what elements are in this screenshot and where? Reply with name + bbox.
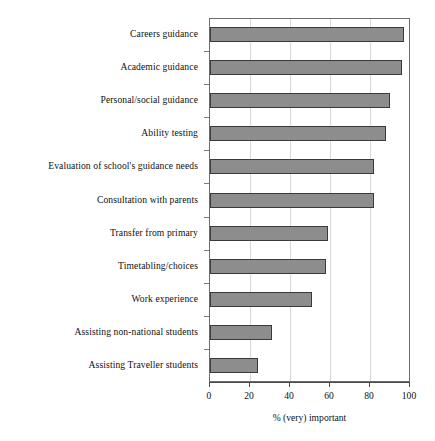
- category-label: Ability testing: [141, 127, 198, 138]
- y-axis-tick: [204, 183, 209, 184]
- x-axis-tick-label: 60: [312, 390, 346, 402]
- y-axis-tick: [204, 250, 209, 251]
- plot-area: [209, 18, 410, 382]
- y-axis-tick: [204, 51, 209, 52]
- category-label: Consultation with parents: [97, 194, 198, 205]
- category-label: Transfer from primary: [110, 227, 198, 238]
- y-axis-tick: [204, 84, 209, 85]
- bar: [210, 226, 328, 241]
- x-axis-tick: [369, 382, 370, 387]
- category-axis-labels: Careers guidanceAcademic guidancePersona…: [0, 18, 203, 382]
- category-label: Assisting non-national students: [74, 326, 198, 337]
- bar: [210, 358, 258, 373]
- bar: [210, 325, 272, 340]
- bar: [210, 93, 390, 108]
- bar: [210, 292, 312, 307]
- x-axis-title: % (very) important: [209, 412, 410, 423]
- bar: [210, 27, 404, 42]
- category-label: Timetabling/choices: [118, 260, 198, 271]
- x-axis-tick-label: 20: [232, 390, 266, 402]
- horizontal-bar-chart: Careers guidanceAcademic guidancePersona…: [0, 0, 435, 441]
- x-axis-tick: [209, 382, 210, 387]
- x-axis-tick-label: 40: [272, 390, 306, 402]
- y-axis-tick: [204, 150, 209, 151]
- category-label: Careers guidance: [130, 28, 198, 39]
- bar: [210, 193, 374, 208]
- bar: [210, 60, 402, 75]
- category-label: Personal/social guidance: [100, 94, 198, 105]
- bar: [210, 126, 386, 141]
- y-axis-tick: [204, 283, 209, 284]
- y-axis-tick: [204, 316, 209, 317]
- y-axis-tick: [204, 217, 209, 218]
- x-axis-tick-label: 100: [392, 390, 426, 402]
- category-label: Evaluation of school's guidance needs: [48, 160, 198, 171]
- bar: [210, 159, 374, 174]
- x-axis-tick-label: 80: [352, 390, 386, 402]
- category-label: Assisting Traveller students: [89, 359, 198, 370]
- x-axis-tick-label: 0: [192, 390, 226, 402]
- x-axis-tick: [409, 382, 410, 387]
- x-axis-tick: [329, 382, 330, 387]
- y-axis-tick: [204, 349, 209, 350]
- x-axis-line: [209, 382, 410, 383]
- x-axis-tick: [249, 382, 250, 387]
- bar: [210, 259, 326, 274]
- category-label: Work experience: [131, 293, 198, 304]
- x-axis-tick: [289, 382, 290, 387]
- category-label: Academic guidance: [120, 61, 198, 72]
- y-axis-tick: [204, 117, 209, 118]
